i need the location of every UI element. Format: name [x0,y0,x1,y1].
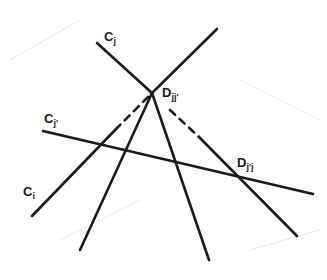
label-ci: Ci [23,185,35,201]
line-left-ray [80,93,152,250]
label-cj: Cj [104,30,116,46]
label-cjp: Cj' [44,112,58,128]
diagram-canvas [0,0,327,280]
line-ci [32,29,217,216]
label-d-jpj: Dj'j [237,156,254,172]
label-d-jjp: Djj' [162,86,179,102]
